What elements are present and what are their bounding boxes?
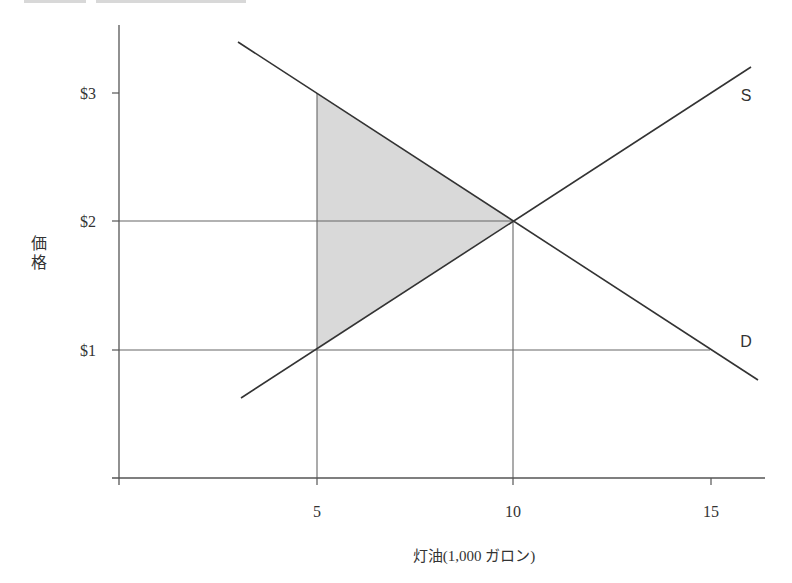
x-tick-label-5: 5 xyxy=(313,503,321,520)
x-axis-label: 灯油(1,000 ガロン) xyxy=(413,548,536,565)
demand-curve-label: D xyxy=(740,333,752,350)
y-axis-label-char-1: 価 xyxy=(31,235,47,252)
x-tick-label-15: 15 xyxy=(703,503,719,520)
y-tick-label-3: $3 xyxy=(80,85,96,102)
y-tick-label-2: $2 xyxy=(80,213,96,230)
y-tick-label-1: $1 xyxy=(80,342,96,359)
demand-curve xyxy=(238,42,758,380)
supply-curve-label: S xyxy=(741,87,752,104)
x-tick-label-10: 10 xyxy=(505,503,521,520)
y-axis-label-char-2: 格 xyxy=(31,254,47,271)
chart-svg: $3 $2 $1 価 格 5 10 15 灯油(1,000 ガロン) S D xyxy=(0,0,792,583)
figure-caption-cropped xyxy=(24,0,246,4)
chart: $3 $2 $1 価 格 5 10 15 灯油(1,000 ガロン) S D xyxy=(0,0,792,583)
